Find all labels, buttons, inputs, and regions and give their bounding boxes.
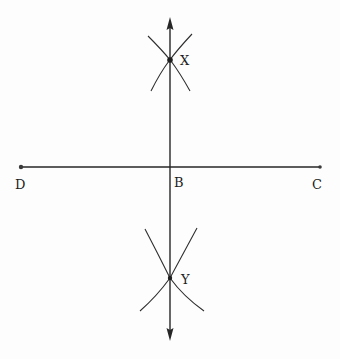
point-x bbox=[167, 57, 173, 63]
point-y bbox=[168, 276, 172, 280]
point-d bbox=[19, 165, 23, 169]
construction-diagram bbox=[0, 0, 340, 359]
label-c: C bbox=[312, 178, 322, 191]
label-b: B bbox=[174, 176, 184, 189]
label-y: Y bbox=[181, 273, 190, 286]
point-c bbox=[318, 165, 322, 169]
label-x: X bbox=[180, 54, 189, 67]
label-d: D bbox=[15, 178, 25, 191]
